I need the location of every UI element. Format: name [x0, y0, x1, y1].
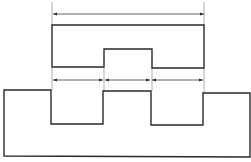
upper-block	[52, 25, 204, 68]
dimension-lines	[53, 14, 204, 80]
extension-lines	[52, 2, 204, 93]
lower-block	[4, 90, 250, 157]
diagram-canvas	[0, 0, 251, 162]
